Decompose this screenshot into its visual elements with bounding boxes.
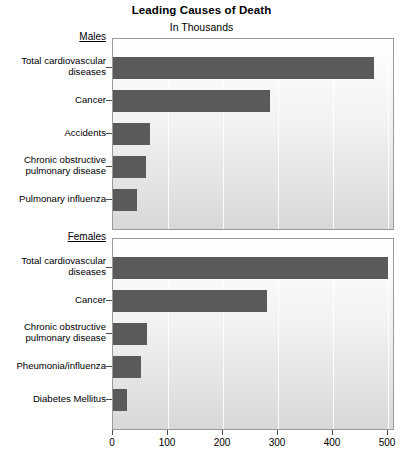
x-tick <box>222 430 223 435</box>
group-label-females-text: Females <box>68 231 106 242</box>
category-label: Pheumonia/influenza <box>0 360 106 371</box>
chart-figure: Leading Causes of Death In Thousands Mal… <box>0 0 403 469</box>
category-label: Chronic obstructive pulmonary disease <box>0 321 106 343</box>
group-label-females: Females <box>0 231 106 242</box>
bar <box>113 156 146 178</box>
bars-females <box>113 239 393 429</box>
category-label: Total cardiovascular diseases <box>0 55 106 77</box>
bar <box>113 123 150 145</box>
bar <box>113 257 388 279</box>
x-tick <box>167 430 168 435</box>
chart-title: Leading Causes of Death <box>0 4 403 16</box>
bar <box>113 356 141 378</box>
bars-males <box>113 39 393 229</box>
bar <box>113 90 270 112</box>
category-tick <box>106 100 112 101</box>
x-tick-label: 0 <box>92 437 132 448</box>
category-label: Cancer <box>0 94 106 105</box>
category-tick <box>106 67 112 68</box>
x-tick-label: 100 <box>147 437 187 448</box>
category-label: Accidents <box>0 127 106 138</box>
bar <box>113 57 374 79</box>
x-tick-label: 400 <box>312 437 352 448</box>
x-axis: 0100200300400500 <box>112 430 394 460</box>
x-tick-label: 500 <box>367 437 403 448</box>
group-label-males-text: Males <box>79 31 106 42</box>
category-tick <box>106 333 112 334</box>
x-tick-label: 200 <box>202 437 242 448</box>
category-tick <box>106 267 112 268</box>
category-tick <box>106 133 112 134</box>
category-tick <box>106 166 112 167</box>
x-tick <box>387 430 388 435</box>
x-tick <box>332 430 333 435</box>
category-label: Diabetes Mellitus <box>0 393 106 404</box>
category-label: Pulmonary influenza <box>0 193 106 204</box>
x-tick <box>277 430 278 435</box>
x-tick-label: 300 <box>257 437 297 448</box>
group-label-males: Males <box>0 31 106 42</box>
plot-panel-males <box>112 38 394 230</box>
category-label: Total cardiovascular diseases <box>0 255 106 277</box>
bar <box>113 389 127 411</box>
bar <box>113 290 267 312</box>
plot-panel-females <box>112 238 394 430</box>
category-label: Chronic obstructive pulmonary disease <box>0 154 106 176</box>
category-label: Cancer <box>0 294 106 305</box>
bar <box>113 189 137 211</box>
x-tick <box>112 430 113 435</box>
category-tick <box>106 199 112 200</box>
category-tick <box>106 399 112 400</box>
category-tick <box>106 366 112 367</box>
category-tick <box>106 300 112 301</box>
bar <box>113 323 147 345</box>
figure-bottom-margin <box>0 458 403 469</box>
